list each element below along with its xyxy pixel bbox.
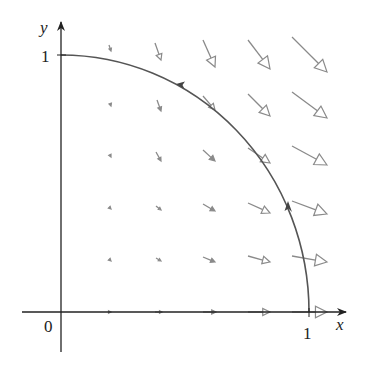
field-arrow	[292, 92, 317, 111]
field-arrowhead-icon	[158, 157, 161, 161]
field-arrowhead-icon	[109, 103, 111, 106]
field-arrow	[248, 94, 263, 109]
field-arrow	[203, 40, 211, 58]
field-arrowhead-icon	[207, 56, 216, 67]
field-arrowhead-icon	[262, 256, 270, 263]
field-arrowhead-icon	[261, 206, 270, 213]
origin-label: 0	[44, 317, 53, 336]
field-arrowhead-icon	[108, 206, 111, 209]
field-arrowhead-icon	[210, 258, 215, 262]
field-arrow	[292, 37, 319, 64]
x-tick-label: 1	[303, 324, 312, 343]
field-arrow	[155, 43, 159, 54]
field-arrowhead-icon	[158, 259, 161, 261]
x-axis-label: x	[335, 315, 344, 334]
field-arrowhead-icon	[158, 107, 162, 111]
field-arrowhead-icon	[108, 258, 111, 261]
field-arrow	[203, 257, 211, 260]
field-arrowhead-icon	[109, 48, 111, 51]
y-tick-label: 1	[41, 47, 50, 66]
field-arrow	[203, 204, 211, 209]
y-axis-label: y	[38, 18, 48, 37]
field-arrow	[203, 150, 211, 157]
field-arrowhead-icon	[314, 106, 327, 118]
field-arrow	[292, 201, 316, 210]
field-arrow	[248, 203, 263, 210]
field-arrowhead-icon	[258, 56, 270, 69]
field-arrowhead-icon	[314, 254, 327, 266]
field-arrowhead-icon	[109, 154, 111, 157]
field-arrow	[248, 40, 263, 59]
field-arrowhead-icon	[210, 207, 215, 211]
vector-field-diagram: y 1 0 1 x	[0, 0, 373, 366]
field-arrow	[292, 146, 316, 159]
field-arrowhead-icon	[156, 53, 162, 60]
quarter-circle-curve	[61, 55, 309, 312]
field-arrow	[157, 100, 160, 107]
vector-field-arrows	[108, 37, 327, 318]
field-arrow	[156, 152, 159, 158]
field-arrow	[248, 256, 263, 260]
field-arrowhead-icon	[314, 204, 327, 215]
